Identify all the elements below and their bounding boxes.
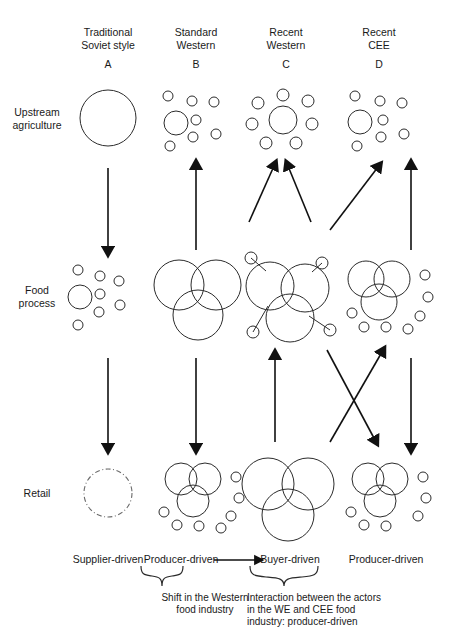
circle-small-upstream-C-0 <box>277 89 289 101</box>
circle-large-food-C-1 <box>281 264 329 312</box>
cluster-upstream-D <box>348 91 409 151</box>
circle-small-upstream-D-5 <box>399 129 409 139</box>
diagram-vector-layer <box>0 0 452 642</box>
link-food-C-1 <box>312 263 322 272</box>
circle-small-retail-B-2 <box>159 507 169 517</box>
circle-small-upstream-D-0 <box>350 91 360 101</box>
arrow-C-food-to-upstream-left <box>249 166 274 222</box>
circle-small-upstream-C-1 <box>252 97 264 109</box>
circle-large-upstream-B-0 <box>164 111 188 135</box>
circle-small-food-D-4 <box>359 322 369 332</box>
circle-small-food-D-0 <box>420 270 430 280</box>
cluster-upstream-B <box>163 91 221 151</box>
circle-small-upstream-D-3 <box>378 115 388 125</box>
circle-small-retail-B-3 <box>226 511 236 521</box>
circle-small-upstream-B-5 <box>211 129 221 139</box>
circle-small-upstream-C-2 <box>302 95 314 107</box>
circle-small-food-D-1 <box>423 292 433 302</box>
circle-small-food-A-1 <box>95 271 105 281</box>
circle-large-retail-C-0 <box>242 458 294 510</box>
cluster-upstream-A <box>80 90 136 146</box>
circle-large-food-D-1 <box>374 261 410 297</box>
circle-small-retail-B-6 <box>216 523 226 533</box>
circle-small-retail-D-3 <box>413 511 423 521</box>
circle-small-food-A-0 <box>73 265 83 275</box>
circle-small-food-A-3 <box>95 289 105 299</box>
brace-interaction-we-cee <box>250 566 318 586</box>
cluster-food-C <box>245 252 336 342</box>
circle-small-retail-D-1 <box>421 493 431 503</box>
circle-small-retail-D-4 <box>359 520 369 530</box>
circle-large-food-A-0 <box>68 285 92 309</box>
circle-large-food-C-0 <box>246 262 294 310</box>
figure-root: Upstream agriculture Food process Retail… <box>0 0 452 642</box>
circle-small-retail-B-0 <box>231 472 241 482</box>
circle-small-retail-B-5 <box>194 521 204 531</box>
circle-large-food-B-2 <box>173 290 223 340</box>
circle-small-food-A-6 <box>73 320 83 330</box>
arrow-CD-cross-down <box>327 350 375 440</box>
flow-arrows <box>108 166 411 560</box>
cluster-retail-A <box>84 469 132 517</box>
circle-small-upstream-B-2 <box>209 97 219 107</box>
circle-large-food-C-2 <box>266 294 314 342</box>
arrow-DC-cross-up <box>330 352 382 442</box>
circle-small-upstream-D-4 <box>376 132 386 142</box>
cluster-retail-D <box>346 463 431 531</box>
circle-small-upstream-C-5 <box>260 137 272 149</box>
circle-small-upstream-B-1 <box>187 96 197 106</box>
circle-small-food-A-5 <box>115 300 125 310</box>
cluster-retail-B <box>159 463 244 533</box>
circle-small-retail-D-2 <box>346 507 356 517</box>
cluster-food-D <box>347 261 433 334</box>
circle-small-upstream-B-4 <box>188 132 198 142</box>
circle-large-food-B-0 <box>154 260 204 310</box>
circle-large-retail-C-2 <box>262 489 314 541</box>
circle-small-upstream-C-4 <box>306 118 318 130</box>
circle-small-upstream-C-3 <box>246 118 258 130</box>
circle-large-upstream-A-0 <box>80 90 136 146</box>
circle-large-upstream-C-0 <box>269 106 297 134</box>
circle-small-upstream-C-6 <box>290 137 302 149</box>
circle-small-upstream-B-6 <box>165 141 175 151</box>
circle-small-food-D-5 <box>381 322 391 332</box>
cluster-food-A <box>68 265 125 330</box>
circle-small-food-D-2 <box>347 308 357 318</box>
circle-small-retail-B-1 <box>234 493 244 503</box>
circle-small-upstream-D-1 <box>375 96 385 106</box>
circle-small-upstream-B-0 <box>163 91 173 101</box>
arrow-CD-food-to-upstream-diagonal <box>330 167 378 230</box>
circle-small-retail-D-5 <box>381 521 391 531</box>
circle-small-food-D-3 <box>415 311 425 321</box>
brace-shift-western <box>141 566 183 586</box>
cluster-food-B <box>154 260 241 340</box>
circle-large-retail-C-1 <box>282 458 334 510</box>
circle-small-food-A-4 <box>94 307 104 317</box>
circle-large-upstream-D-0 <box>348 110 372 134</box>
cluster-retail-C <box>242 458 334 541</box>
circle-small-retail-B-4 <box>172 520 182 530</box>
circle-large-retail-A-0 <box>84 469 132 517</box>
circle-clusters <box>68 89 433 541</box>
circle-large-food-B-1 <box>191 260 241 310</box>
circle-small-upstream-D-2 <box>397 98 407 108</box>
circle-small-food-A-2 <box>114 276 124 286</box>
circle-small-food-D-6 <box>403 324 413 334</box>
circle-large-food-D-2 <box>361 284 397 320</box>
circle-small-retail-D-0 <box>418 472 428 482</box>
arrow-C-food-to-upstream-right <box>288 166 311 222</box>
circle-small-upstream-B-3 <box>191 115 201 125</box>
cluster-upstream-C <box>246 89 318 149</box>
circle-small-upstream-D-6 <box>352 141 362 151</box>
